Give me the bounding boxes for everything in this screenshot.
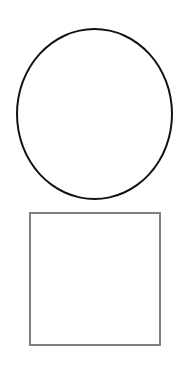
square-shape xyxy=(29,212,161,346)
circle-shape xyxy=(16,28,173,200)
shape-canvas xyxy=(0,0,188,367)
